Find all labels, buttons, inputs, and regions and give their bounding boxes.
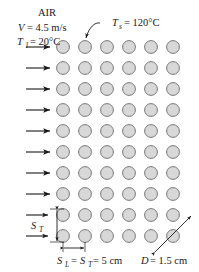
tube-circle	[79, 230, 92, 243]
tube-row	[57, 188, 180, 201]
tube-row	[57, 125, 180, 138]
longitudinal-pitch-subscript: L	[64, 260, 69, 269]
tube-circle	[167, 41, 180, 54]
tube-circle	[79, 188, 92, 201]
transverse-pitch-subscript: T	[39, 225, 44, 234]
tube-circle	[79, 104, 92, 117]
tube-row	[57, 41, 180, 54]
tube-circle	[101, 104, 114, 117]
pitch-equation-symbol2: S	[80, 255, 86, 266]
tube-circle	[145, 167, 158, 180]
tube-circle	[123, 41, 136, 54]
inlet-temp-value: = 20°C	[30, 36, 60, 47]
tube-circle	[167, 188, 180, 201]
tube-row	[57, 62, 180, 75]
tube-circle	[79, 146, 92, 159]
tube-circle	[79, 125, 92, 138]
tube-circle	[123, 209, 136, 222]
tube-circle	[101, 125, 114, 138]
tube-circle	[145, 83, 158, 96]
tube-circle	[123, 104, 136, 117]
tube-circle	[145, 188, 158, 201]
tube-circle	[167, 167, 180, 180]
inlet-temp-subscript: 1	[25, 41, 29, 50]
tube-row	[57, 209, 180, 222]
tube-circle	[101, 188, 114, 201]
tube-circle	[101, 209, 114, 222]
tube-circle	[57, 230, 70, 243]
diameter-value: = 1.5 cm	[150, 255, 187, 266]
tube-circle	[145, 230, 158, 243]
tube-circle	[57, 83, 70, 96]
tube-circle	[167, 146, 180, 159]
tube-circle	[57, 62, 70, 75]
surface-temp-subscript: s	[119, 22, 122, 31]
diameter-label-group: D = 1.5 cm	[140, 255, 187, 266]
tube-row	[57, 230, 180, 243]
tube-circle-diameter	[167, 230, 180, 243]
tube-circle	[101, 230, 114, 243]
pitch-equation-mid: =	[71, 255, 77, 266]
diagram-canvas: AIR V = 4.5 m/s T 1 = 20°C T s = 120°C S…	[0, 0, 199, 272]
diameter-symbol: D	[140, 255, 149, 266]
transverse-pitch-symbol: S	[31, 220, 37, 231]
tube-circle	[167, 125, 180, 138]
tube-circle	[145, 104, 158, 117]
tube-circle	[167, 209, 180, 222]
tube-row	[57, 146, 180, 159]
tube-circle	[167, 83, 180, 96]
tube-circle	[101, 62, 114, 75]
tube-circle	[101, 167, 114, 180]
pitch-equation-label-group: S L = S T = 5 cm	[57, 255, 122, 269]
tube-circle	[101, 83, 114, 96]
tube-bank-grid	[57, 41, 180, 243]
tube-circle	[57, 167, 70, 180]
tube-circle	[101, 41, 114, 54]
tube-circle	[123, 83, 136, 96]
longitudinal-pitch-dimension	[63, 242, 85, 252]
tube-circle	[101, 146, 114, 159]
inlet-temperature-label-group: T 1 = 20°C	[17, 36, 60, 50]
leader-arrow-icon	[86, 23, 100, 38]
flow-arrows-group	[26, 47, 50, 236]
tube-circle	[145, 125, 158, 138]
tube-circle	[79, 83, 92, 96]
tube-circle	[167, 62, 180, 75]
surface-temp-value: = 120°C	[124, 17, 160, 28]
tube-row	[57, 167, 180, 180]
tube-circle-highlighted	[79, 41, 92, 54]
fluid-label: AIR	[38, 7, 56, 18]
velocity-value: = 4.5 m/s	[27, 22, 66, 33]
tube-circle	[79, 209, 92, 222]
tube-circle	[57, 209, 70, 222]
tube-bank-diagram: AIR V = 4.5 m/s T 1 = 20°C T s = 120°C S…	[0, 0, 199, 272]
tube-circle	[123, 146, 136, 159]
tube-circle	[123, 125, 136, 138]
transverse-pitch-label-group: S T	[31, 220, 44, 234]
tube-circle	[79, 167, 92, 180]
tube-circle	[123, 62, 136, 75]
tube-circle	[57, 188, 70, 201]
tube-circle	[145, 41, 158, 54]
tube-circle	[123, 230, 136, 243]
pitch-equation-value: = 5 cm	[93, 255, 122, 266]
tube-circle	[57, 125, 70, 138]
tube-circle	[79, 62, 92, 75]
tube-circle	[145, 209, 158, 222]
tube-row	[57, 104, 180, 117]
surface-temperature-label-group: T s = 120°C	[112, 17, 160, 31]
tube-circle	[57, 146, 70, 159]
tube-circle	[145, 62, 158, 75]
longitudinal-pitch-symbol: S	[57, 255, 63, 266]
velocity-label-group: V = 4.5 m/s	[18, 22, 66, 33]
velocity-symbol: V	[18, 22, 26, 33]
tube-row	[57, 83, 180, 96]
inlet-temp-symbol: T	[17, 36, 24, 47]
tube-circle	[57, 104, 70, 117]
tube-circle	[167, 104, 180, 117]
tube-circle	[123, 188, 136, 201]
surface-temp-symbol: T	[112, 17, 119, 28]
tube-circle	[145, 146, 158, 159]
tube-circle	[123, 167, 136, 180]
